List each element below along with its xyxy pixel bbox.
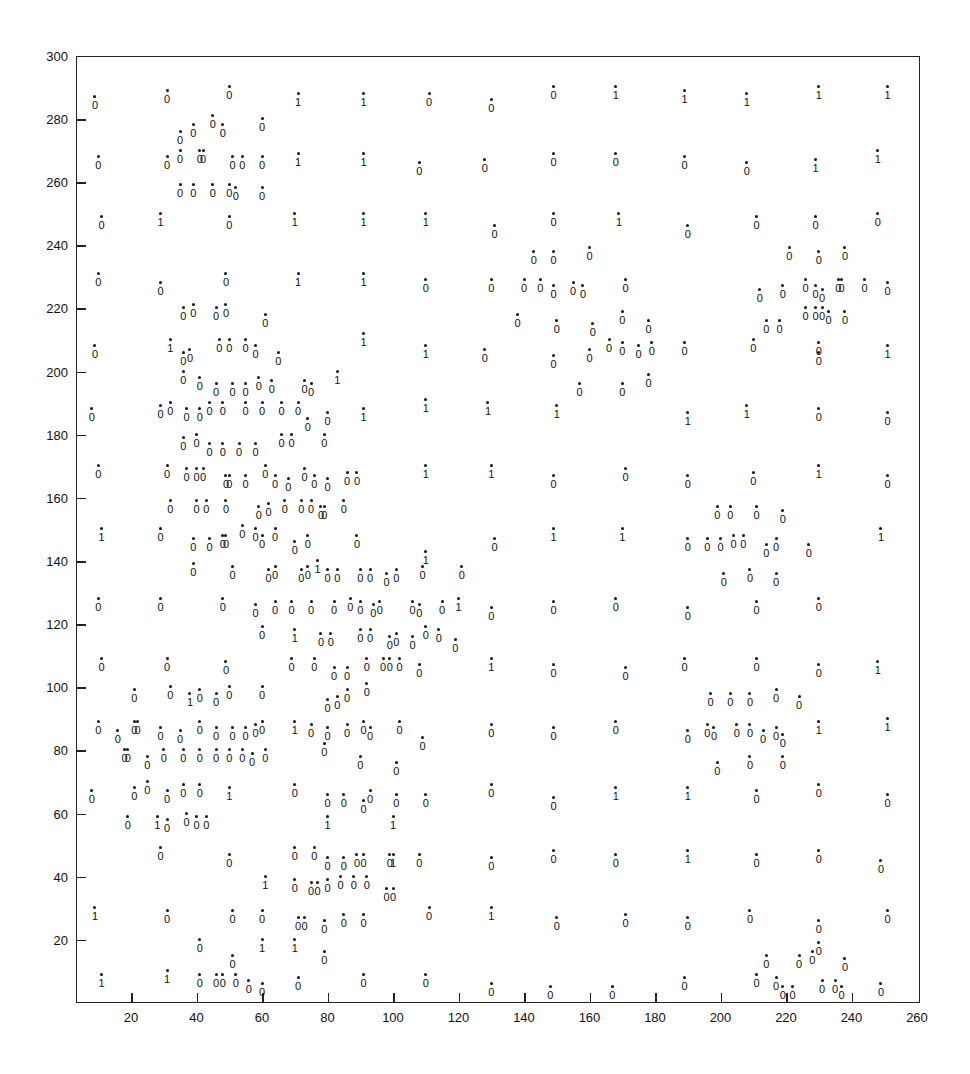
point-label: 0 xyxy=(488,282,494,294)
point-label: 0 xyxy=(193,819,199,831)
point-marker-icon xyxy=(362,720,365,723)
point-label: 1 xyxy=(681,93,687,105)
point-marker-icon xyxy=(224,534,227,537)
point-label: 1 xyxy=(455,601,461,613)
point-label: 0 xyxy=(747,913,753,925)
data-point-class-0: 0 xyxy=(335,875,347,891)
point-marker-icon xyxy=(97,720,100,723)
point-marker-icon xyxy=(261,720,264,723)
data-point-class-0: 0 xyxy=(322,856,334,872)
point-marker-icon xyxy=(840,985,843,988)
data-point-class-1: 1 xyxy=(387,815,399,831)
point-marker-icon xyxy=(781,985,784,988)
point-marker-icon xyxy=(798,954,801,957)
data-point-class-0: 0 xyxy=(813,407,825,423)
point-label: 0 xyxy=(190,307,196,319)
point-label: 1 xyxy=(685,853,691,865)
point-marker-icon xyxy=(490,98,493,101)
data-point-class-0: 0 xyxy=(803,543,815,559)
point-label: 0 xyxy=(622,282,628,294)
data-point-class-0: 0 xyxy=(92,272,104,288)
point-marker-icon xyxy=(729,692,732,695)
data-point-class-0: 0 xyxy=(633,344,645,360)
point-marker-icon xyxy=(758,288,761,291)
data-point-class-0: 0 xyxy=(361,657,373,673)
x-tick xyxy=(852,993,854,1003)
data-point-class-0: 0 xyxy=(358,913,370,929)
point-label: 0 xyxy=(259,724,265,736)
data-point-class-0: 0 xyxy=(374,600,386,616)
data-point-class-1: 1 xyxy=(96,973,108,989)
point-marker-icon xyxy=(254,527,257,530)
x-tick xyxy=(197,993,199,1003)
point-label: 0 xyxy=(259,538,265,550)
data-point-class-0: 0 xyxy=(227,726,239,742)
point-label: 0 xyxy=(796,699,802,711)
point-label: 1 xyxy=(816,468,822,480)
point-label: 0 xyxy=(239,159,245,171)
point-marker-icon xyxy=(362,92,365,95)
point-marker-icon xyxy=(166,464,169,467)
data-point-class-0: 0 xyxy=(266,379,278,395)
point-label: 0 xyxy=(360,977,366,989)
point-marker-icon xyxy=(323,919,326,922)
point-label: 1 xyxy=(685,790,691,802)
data-point-class-0: 0 xyxy=(547,726,559,742)
point-label: 0 xyxy=(760,733,766,745)
point-marker-icon xyxy=(490,464,493,467)
data-point-class-0: 0 xyxy=(358,853,370,869)
point-label: 0 xyxy=(302,920,308,932)
point-label: 0 xyxy=(157,408,163,420)
point-label: 1 xyxy=(744,96,750,108)
data-point-class-0: 0 xyxy=(777,755,789,771)
data-point-class-0: 0 xyxy=(217,123,229,139)
point-label: 0 xyxy=(803,310,809,322)
point-label: 1 xyxy=(292,724,298,736)
data-point-class-0: 0 xyxy=(194,376,206,392)
data-point-class-0: 0 xyxy=(269,527,281,543)
point-marker-icon xyxy=(224,499,227,502)
data-point-class-0: 0 xyxy=(777,733,789,749)
point-label: 0 xyxy=(747,727,753,739)
point-label: 0 xyxy=(216,342,222,354)
data-point-class-0: 0 xyxy=(420,793,432,809)
point-label: 1 xyxy=(295,156,301,168)
data-point-class-0: 0 xyxy=(174,130,186,146)
point-label: 0 xyxy=(842,250,848,262)
point-marker-icon xyxy=(326,726,329,729)
data-point-class-0: 0 xyxy=(485,278,497,294)
point-label: 0 xyxy=(259,986,265,998)
data-point-class-0: 0 xyxy=(341,688,353,704)
point-marker-icon xyxy=(493,537,496,540)
point-marker-icon xyxy=(264,875,267,878)
point-label: 0 xyxy=(416,607,422,619)
point-marker-icon xyxy=(834,979,837,982)
point-label: 1 xyxy=(875,664,881,676)
point-label: 1 xyxy=(98,977,104,989)
point-label: 1 xyxy=(334,374,340,386)
point-label: 0 xyxy=(236,446,242,458)
data-point-class-0: 0 xyxy=(777,509,789,525)
point-label: 0 xyxy=(773,541,779,553)
data-point-class-0: 0 xyxy=(174,149,186,165)
point-marker-icon xyxy=(775,726,778,729)
point-label: 0 xyxy=(744,165,750,177)
point-marker-icon xyxy=(876,149,879,152)
point-marker-icon xyxy=(378,600,381,603)
point-label: 0 xyxy=(613,724,619,736)
point-marker-icon xyxy=(686,786,689,789)
y-tick xyxy=(76,308,86,310)
point-label: 0 xyxy=(816,853,822,865)
point-marker-icon xyxy=(424,464,427,467)
point-marker-icon xyxy=(411,635,414,638)
point-marker-icon xyxy=(169,499,172,502)
data-point-class-0: 0 xyxy=(318,433,330,449)
point-label: 0 xyxy=(321,746,327,758)
data-point-class-0: 0 xyxy=(872,212,884,228)
data-point-class-0: 0 xyxy=(331,568,343,584)
data-point-class-0: 0 xyxy=(194,973,206,989)
data-point-class-0: 0 xyxy=(511,313,523,329)
point-marker-icon xyxy=(755,600,758,603)
point-label: 0 xyxy=(213,730,219,742)
data-point-class-0: 0 xyxy=(259,313,271,329)
